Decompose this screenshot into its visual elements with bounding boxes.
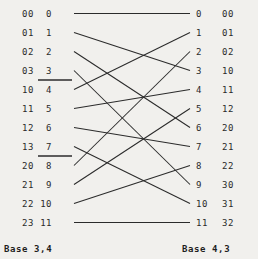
left-code-13: 13 xyxy=(22,142,34,152)
left-code-22: 22 xyxy=(22,199,34,209)
right-index-11: 11 xyxy=(196,218,212,228)
right-index-4: 4 xyxy=(196,85,212,95)
left-code-01: 01 xyxy=(22,28,34,38)
right-index-0: 0 xyxy=(196,9,212,19)
left-index-1: 1 xyxy=(36,28,52,38)
right-code-00: 00 xyxy=(222,9,234,19)
left-code-21: 21 xyxy=(22,180,34,190)
left-index-7: 7 xyxy=(36,142,52,152)
left-code-02: 02 xyxy=(22,47,34,57)
right-index-8: 8 xyxy=(196,161,212,171)
right-code-10: 10 xyxy=(222,66,234,76)
wire-6-to-7 xyxy=(74,128,190,147)
right-code-22: 22 xyxy=(222,161,234,171)
left-code-11: 11 xyxy=(22,104,34,114)
right-index-2: 2 xyxy=(196,47,212,57)
right-code-31: 31 xyxy=(222,199,234,209)
right-index-10: 10 xyxy=(196,199,212,209)
right-code-01: 01 xyxy=(222,28,234,38)
wire-7-to-10 xyxy=(74,147,190,204)
right-code-21: 21 xyxy=(222,142,234,152)
base-label-left: Base 3,4 xyxy=(4,244,52,254)
left-code-12: 12 xyxy=(22,123,34,133)
left-code-00: 00 xyxy=(22,9,34,19)
right-code-30: 30 xyxy=(222,180,234,190)
right-index-5: 5 xyxy=(196,104,212,114)
wire-1-to-3 xyxy=(74,33,190,71)
wire-2-to-6 xyxy=(74,52,190,128)
right-code-20: 20 xyxy=(222,123,234,133)
left-index-10: 10 xyxy=(36,199,52,209)
wire-9-to-5 xyxy=(74,109,190,185)
left-index-6: 6 xyxy=(36,123,52,133)
wire-10-to-8 xyxy=(74,166,190,204)
left-index-2: 2 xyxy=(36,47,52,57)
wire-5-to-4 xyxy=(74,90,190,109)
right-code-02: 02 xyxy=(222,47,234,57)
wire-3-to-9 xyxy=(74,71,190,185)
left-index-4: 4 xyxy=(36,85,52,95)
left-index-3: 3 xyxy=(36,66,52,76)
right-index-3: 3 xyxy=(196,66,212,76)
left-index-5: 5 xyxy=(36,104,52,114)
right-index-1: 1 xyxy=(196,28,212,38)
right-code-12: 12 xyxy=(222,104,234,114)
right-index-7: 7 xyxy=(196,142,212,152)
left-code-23: 23 xyxy=(22,218,34,228)
right-index-6: 6 xyxy=(196,123,212,133)
wire-group xyxy=(74,14,190,223)
right-code-11: 11 xyxy=(222,85,234,95)
base-label-right: Base 4,3 xyxy=(182,244,230,254)
left-code-10: 10 xyxy=(22,85,34,95)
left-index-11: 11 xyxy=(36,218,52,228)
diagram-canvas: 000102031011121320212223 01234567891011 … xyxy=(0,0,258,259)
left-code-03: 03 xyxy=(22,66,34,76)
right-index-9: 9 xyxy=(196,180,212,190)
left-index-0: 0 xyxy=(36,9,52,19)
wire-8-to-2 xyxy=(74,52,190,166)
wire-4-to-1 xyxy=(74,33,190,90)
left-code-20: 20 xyxy=(22,161,34,171)
left-index-9: 9 xyxy=(36,180,52,190)
right-code-32: 32 xyxy=(222,218,234,228)
left-index-8: 8 xyxy=(36,161,52,171)
